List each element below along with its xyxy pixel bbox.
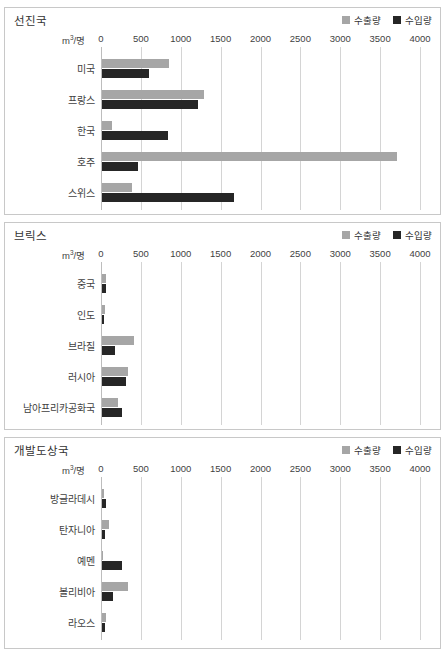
panel-title: 개발도상국	[14, 442, 69, 458]
bar-export	[102, 90, 204, 99]
bar-row: 미국	[5, 53, 440, 84]
panel-title: 선진국	[14, 12, 47, 28]
legend-swatch-import-icon	[393, 446, 401, 454]
legend: 수출량 수입량	[342, 443, 432, 457]
category-label: 인도	[5, 307, 101, 322]
chart-panel-developing: 개발도상국 수출량 수입량 m3/명0500100015002000250030…	[4, 437, 441, 649]
bar-export	[102, 613, 106, 622]
bar-export	[102, 183, 132, 192]
x-axis-ticks: 05001000150020002500300035004000	[5, 245, 440, 261]
x-tick-label: 0	[98, 248, 103, 259]
x-axis-ticks: 05001000150020002500300035004000	[5, 460, 440, 476]
bar-import	[102, 131, 168, 140]
panel-header: 브릭스 수출량 수입량	[5, 223, 440, 245]
x-tick-label: 2000	[250, 463, 271, 474]
bar-import	[102, 499, 106, 508]
legend-swatch-export-icon	[342, 231, 350, 239]
x-tick-label: 2000	[250, 33, 271, 44]
bar-export	[102, 551, 103, 560]
x-tick-label: 3000	[330, 248, 351, 259]
bar-row: 중국	[5, 268, 440, 299]
legend-item-import: 수입량	[393, 13, 432, 27]
grid-area: 미국프랑스한국호주스위스	[5, 47, 440, 210]
bar-import	[102, 315, 104, 324]
chart-panel-brics: 브릭스 수출량 수입량 m3/명050010001500200025003000…	[4, 222, 441, 430]
legend: 수출량 수입량	[342, 13, 432, 27]
x-tick-label: 0	[98, 463, 103, 474]
bar-import	[102, 100, 198, 109]
plot-area: m3/명05001000150020002500300035004000중국인도…	[5, 245, 440, 425]
x-tick-label: 500	[133, 463, 149, 474]
x-tick-label: 1500	[210, 248, 231, 259]
x-tick-label: 2500	[290, 33, 311, 44]
bar-import	[102, 162, 138, 171]
x-tick-label: 500	[133, 33, 149, 44]
bar-import	[102, 377, 126, 386]
bar-export	[102, 305, 105, 314]
panel-header: 선진국 수출량 수입량	[5, 8, 440, 30]
category-label: 호주	[5, 154, 101, 169]
bar-row: 남아프리카공화국	[5, 392, 440, 423]
x-axis-ticks: 05001000150020002500300035004000	[5, 30, 440, 46]
bar-row: 인도	[5, 299, 440, 330]
category-label: 한국	[5, 123, 101, 138]
x-tick-label: 3500	[370, 248, 391, 259]
bar-export	[102, 274, 106, 283]
legend-item-export: 수출량	[342, 228, 381, 242]
x-tick-label: 1000	[170, 463, 191, 474]
bar-import	[102, 346, 115, 355]
bar-export	[102, 121, 112, 130]
legend-swatch-import-icon	[393, 16, 401, 24]
x-tick-label: 0	[98, 33, 103, 44]
category-label: 볼리비아	[5, 584, 101, 599]
chart-page: 선진국 수출량 수입량 m3/명050010001500200025003000…	[0, 0, 445, 652]
category-label: 러시아	[5, 369, 101, 384]
category-label: 탄자니아	[5, 522, 101, 537]
x-tick-label: 1500	[210, 33, 231, 44]
x-tick-label: 3500	[370, 33, 391, 44]
x-tick-label: 1000	[170, 248, 191, 259]
x-tick-label: 3000	[330, 33, 351, 44]
x-tick-label: 500	[133, 248, 149, 259]
bar-export	[102, 367, 128, 376]
category-label: 미국	[5, 61, 101, 76]
x-tick-label: 4000	[409, 33, 430, 44]
legend-swatch-import-icon	[393, 231, 401, 239]
x-tick-label: 2000	[250, 248, 271, 259]
bar-import	[102, 592, 113, 601]
bar-export	[102, 152, 397, 161]
bar-row: 호주	[5, 146, 440, 177]
bar-export	[102, 59, 169, 68]
top-caption	[0, 0, 445, 6]
category-label: 스위스	[5, 185, 101, 200]
bar-row: 방글라데시	[5, 483, 440, 514]
bar-export	[102, 520, 109, 529]
plot-area: m3/명05001000150020002500300035004000미국프랑…	[5, 30, 440, 210]
bar-row: 스위스	[5, 177, 440, 208]
panel-header: 개발도상국 수출량 수입량	[5, 438, 440, 460]
bar-import	[102, 284, 106, 293]
legend-label-import: 수입량	[405, 228, 432, 242]
x-tick-label: 1000	[170, 33, 191, 44]
bar-row: 예멘	[5, 545, 440, 576]
bar-import	[102, 69, 149, 78]
x-tick-label: 3500	[370, 463, 391, 474]
legend-label-export: 수출량	[354, 228, 381, 242]
x-tick-label: 1500	[210, 463, 231, 474]
bar-import	[102, 561, 122, 570]
panel-title: 브릭스	[14, 227, 47, 243]
plot-area: m3/명05001000150020002500300035004000방글라데…	[5, 460, 440, 640]
legend-swatch-export-icon	[342, 16, 350, 24]
category-label: 예멘	[5, 553, 101, 568]
category-label: 남아프리카공화국	[5, 400, 101, 415]
bar-row: 탄자니아	[5, 514, 440, 545]
x-tick-label: 4000	[409, 463, 430, 474]
legend-swatch-export-icon	[342, 446, 350, 454]
bar-export	[102, 582, 128, 591]
legend-item-import: 수입량	[393, 443, 432, 457]
legend-item-export: 수출량	[342, 443, 381, 457]
chart-panel-developed: 선진국 수출량 수입량 m3/명050010001500200025003000…	[4, 7, 441, 215]
category-label: 브라질	[5, 338, 101, 353]
legend-label-import: 수입량	[405, 13, 432, 27]
bar-row: 러시아	[5, 361, 440, 392]
